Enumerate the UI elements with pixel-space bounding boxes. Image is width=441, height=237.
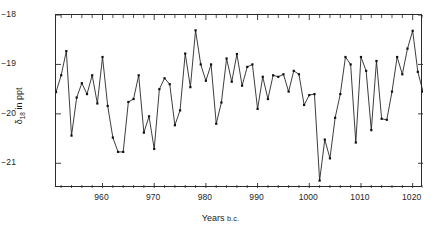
data-point [329,157,331,159]
data-point [189,86,191,88]
data-point [101,56,103,58]
x-tick-label: 960 [94,192,108,202]
data-point [86,93,88,95]
series-markers [56,29,423,181]
data-point [200,63,202,65]
data-point [288,91,290,93]
data-point [210,63,212,65]
data-point [386,119,388,121]
data-point [60,74,62,76]
plot-area [55,14,422,187]
data-point [282,73,284,75]
data-point [174,124,176,126]
data-point [417,71,419,73]
data-point [122,151,124,153]
data-point [76,96,78,98]
x-tick-label: 1010 [350,192,369,202]
x-tick-label: 1000 [299,192,318,202]
data-point [246,66,248,68]
data-point [334,117,336,119]
data-point [236,53,238,55]
data-point [401,73,403,75]
data-point [262,76,264,78]
data-point [391,91,393,93]
data-point [308,94,310,96]
data-point [220,101,222,103]
data-point [163,77,165,79]
data-point [96,102,98,104]
data-point [117,151,119,153]
data-point [360,56,362,58]
x-axis-title-era: b.c. [227,214,239,223]
data-point [324,138,326,140]
data-point [179,109,181,111]
data-point [81,82,83,84]
data-point [267,98,269,100]
data-point [277,76,279,78]
data-point [215,123,217,125]
x-tick-label: 1020 [402,192,421,202]
data-point [65,50,67,52]
data-point [396,56,398,58]
series-line [56,30,423,180]
data-point [158,88,160,90]
data-point [127,101,129,103]
data-point [375,60,377,62]
data-point [344,56,346,58]
data-point [251,63,253,65]
data-point [143,132,145,134]
x-tick-label: 980 [198,192,212,202]
data-point [112,136,114,138]
data-point [293,70,295,72]
data-point [138,74,140,76]
y-tick-label: −18 [1,9,16,19]
data-point [256,108,258,110]
data-point [148,115,150,117]
data-point [70,135,72,137]
data-point [319,179,321,181]
y-axis-title-symbol: δ [14,119,24,124]
x-major-ticks [103,15,413,188]
x-tick-label: 990 [249,192,263,202]
data-point [241,85,243,87]
x-tick-label: 970 [146,192,160,202]
data-point [303,104,305,106]
x-axis-title-main: Years [202,213,225,223]
data-point [91,74,93,76]
data-point [107,105,109,107]
y-axis-title-rest: in ppt [14,88,24,113]
data-point [132,98,134,100]
data-point [313,93,315,95]
data-point [406,48,408,50]
data-point [153,148,155,150]
data-point [225,57,227,59]
data-point [422,91,423,93]
data-point [412,30,414,32]
data-point [355,141,357,143]
data-point [365,70,367,72]
data-point [381,118,383,120]
chart-figure: −18−19−20−21 960970980990100010101020 δ1… [0,0,441,237]
x-axis-title: Years b.c. [0,213,441,223]
data-point [339,93,341,95]
data-point [272,74,274,76]
data-point [298,73,300,75]
data-point [184,52,186,54]
y-axis-title: δ18 in ppt [14,41,26,171]
data-point [231,81,233,83]
data-point [205,80,207,82]
y-axis-title-subscript: 18 [19,112,26,119]
data-point [370,129,372,131]
data-point [350,63,352,65]
data-point [194,29,196,31]
data-point [169,83,171,85]
data-point [56,91,57,93]
data-series-svg [56,15,423,188]
